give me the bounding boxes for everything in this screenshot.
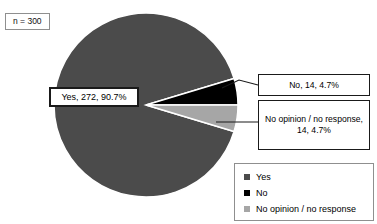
legend-label-yes: Yes (256, 172, 271, 182)
pie-chart-figure: n = 300 Yes, 272, 90.7% No, 14, 4.7% No … (0, 0, 377, 224)
legend-swatch-icon-no-opinion (244, 206, 250, 212)
legend-swatch-icon-no (244, 190, 250, 196)
legend: Yes No No opinion / no response (234, 163, 374, 221)
legend-swatch-icon-yes (244, 174, 250, 180)
legend-item-no: No (244, 185, 373, 201)
callout-no: No, 14, 4.7% (258, 74, 370, 96)
callout-no-opinion: No opinion / no response, 14, 4.7% (258, 100, 370, 150)
callout-yes: Yes, 272, 90.7% (49, 87, 139, 107)
legend-item-yes: Yes (244, 169, 373, 185)
legend-label-no-opinion: No opinion / no response (256, 204, 356, 214)
legend-item-no-opinion: No opinion / no response (244, 201, 373, 217)
legend-label-no: No (256, 188, 268, 198)
